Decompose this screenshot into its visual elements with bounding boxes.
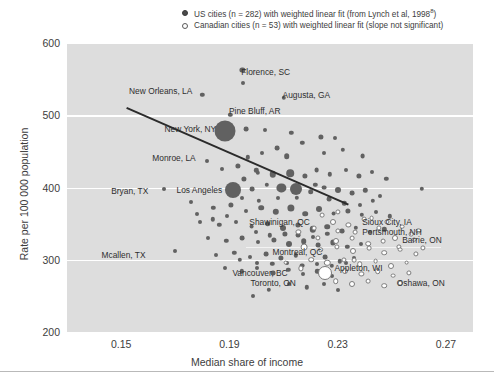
- data-point-us: [360, 154, 365, 159]
- point-annotation: Florence, SC: [241, 67, 290, 77]
- data-point-us: [300, 141, 304, 145]
- point-annotation: Los Angeles: [177, 185, 223, 195]
- data-point-canada: [381, 239, 386, 244]
- data-point-us: [370, 170, 374, 174]
- data-point-us: [333, 136, 337, 140]
- data-point-us: [206, 236, 210, 240]
- data-point-us: [344, 168, 348, 172]
- data-point-canada: [406, 270, 411, 275]
- data-point-us: [256, 240, 260, 244]
- data-point-us: [214, 253, 218, 257]
- data-point-us: [384, 177, 388, 181]
- data-point-us: [289, 130, 293, 134]
- data-point-us: [250, 187, 255, 192]
- plot-area: Florence, SCNew Orleans, LAAugusta, GAPi…: [67, 43, 473, 332]
- footer-rule: [0, 371, 494, 372]
- open-circle-icon: [182, 23, 188, 29]
- data-point-us: [210, 217, 214, 221]
- data-point-us: [234, 220, 238, 224]
- data-point-us: [374, 210, 378, 214]
- data-point-us: [244, 209, 248, 213]
- data-point-us: [316, 206, 322, 212]
- data-point-canada: [316, 235, 321, 240]
- data-point-us: [363, 188, 367, 192]
- point-annotation: Toronto, ON: [251, 278, 296, 288]
- data-point-canada: [398, 247, 403, 252]
- chart-legend: US cities (n = 282) with weighted linear…: [182, 7, 443, 32]
- point-annotation: Mcallen, TX: [101, 250, 145, 260]
- data-point-us: [251, 294, 255, 298]
- data-point-canada: [308, 257, 314, 263]
- data-point-us: [223, 266, 227, 270]
- data-point-us: [322, 185, 327, 190]
- data-point-us: [335, 187, 341, 193]
- data-point-us: [205, 159, 209, 163]
- point-annotation: Vancouver, BC: [232, 268, 287, 278]
- data-point-us: [345, 208, 350, 213]
- data-point-us: [255, 261, 259, 265]
- data-point-canada: [353, 230, 358, 235]
- data-point-us: [314, 168, 319, 173]
- data-point-canada: [283, 260, 288, 265]
- data-point-us: [264, 252, 269, 257]
- data-point-us: [301, 272, 305, 276]
- data-point-canada: [350, 248, 356, 254]
- data-point-us: [220, 167, 224, 171]
- data-point-canada: [404, 260, 409, 265]
- data-point-us: [325, 224, 331, 230]
- data-point-us: [162, 187, 166, 191]
- data-point-us: [228, 202, 233, 207]
- data-point-us: [325, 232, 329, 236]
- data-point-us: [240, 236, 245, 241]
- data-point-us: [265, 182, 269, 186]
- x-axis-title: Median share of income: [0, 356, 494, 368]
- data-point-us: [256, 198, 260, 202]
- data-point-us: [356, 173, 361, 178]
- data-point-us: [195, 212, 199, 216]
- data-point-us: [315, 262, 319, 266]
- y-tick-label: 500: [42, 109, 60, 121]
- data-point-us: [173, 249, 177, 253]
- data-point-us: [215, 121, 236, 142]
- data-point-us: [200, 93, 204, 97]
- data-point-us: [254, 230, 258, 234]
- point-annotation: Montreal, QC: [272, 247, 322, 257]
- point-annotation: Shawinigan, QC: [249, 217, 310, 227]
- data-point-canada: [335, 244, 340, 249]
- figure-chart: US cities (n = 282) with weighted linear…: [0, 0, 494, 387]
- data-point-us: [322, 151, 326, 155]
- point-annotation: Oshawa, ON: [397, 278, 445, 288]
- data-point-canada: [352, 257, 357, 262]
- data-point-us: [224, 239, 228, 243]
- data-point-canada: [333, 238, 339, 244]
- data-point-canada: [366, 279, 371, 284]
- point-annotation: Sioux City, IA: [362, 217, 412, 227]
- point-annotation: Barrie, ON: [402, 235, 442, 245]
- data-point-canada: [366, 246, 371, 251]
- data-point-us: [284, 154, 290, 160]
- x-tick-label: 0.19: [219, 338, 239, 350]
- data-point-us: [235, 163, 240, 168]
- data-point-us: [256, 171, 260, 175]
- data-point-us: [294, 195, 298, 199]
- data-point-canada: [413, 251, 418, 256]
- data-point-us: [303, 173, 308, 178]
- data-point-us: [211, 206, 215, 210]
- data-point-us: [378, 194, 382, 198]
- data-point-us: [349, 191, 354, 196]
- gridline: [67, 260, 473, 261]
- x-tick-label: 0.23: [327, 338, 347, 350]
- legend-item-canada: Canadian cities (n = 53) with weighted l…: [182, 20, 443, 33]
- data-point-us: [240, 196, 244, 200]
- point-annotation: Appleton, WI: [335, 263, 383, 273]
- data-point-us: [225, 214, 229, 218]
- data-point-us: [276, 196, 280, 200]
- data-point-canada: [336, 209, 341, 214]
- data-point-canada: [349, 236, 354, 241]
- data-point-canada: [320, 213, 325, 218]
- data-point-us: [263, 128, 267, 132]
- data-point-us: [248, 255, 252, 259]
- data-point-us: [313, 182, 317, 186]
- y-axis-title: Rate per 100 000 population: [18, 69, 30, 319]
- data-point-canada: [391, 273, 396, 278]
